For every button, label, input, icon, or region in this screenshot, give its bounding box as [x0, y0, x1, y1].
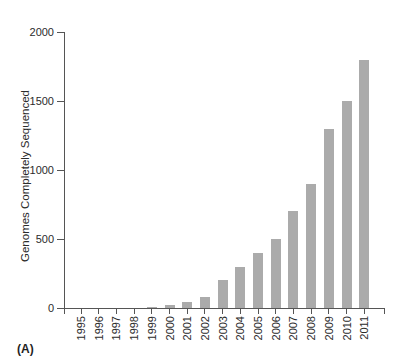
x-tick — [311, 308, 312, 314]
x-tick — [204, 308, 205, 314]
y-tick — [57, 308, 64, 309]
x-tick-label: 1997 — [110, 316, 122, 340]
bar — [200, 297, 210, 308]
x-tick — [151, 308, 152, 314]
x-tick — [328, 308, 329, 314]
x-tick-label: 2001 — [181, 316, 193, 340]
bar — [342, 101, 352, 308]
plot-area: 0500100015002000199519961997199819992000… — [64, 32, 384, 309]
bar — [218, 280, 228, 308]
bar — [288, 211, 298, 308]
x-tick — [81, 308, 82, 314]
bar — [324, 129, 334, 308]
bar — [306, 184, 316, 308]
x-tick-label: 2008 — [305, 316, 317, 340]
x-tick-label: 2006 — [270, 316, 282, 340]
x-tick — [258, 308, 259, 314]
x-tick — [346, 308, 347, 314]
x-tick-label: 2010 — [341, 316, 353, 340]
axis-origin-tick — [64, 308, 65, 314]
x-tick — [364, 308, 365, 314]
y-tick — [57, 32, 64, 33]
x-tick-label: 1995 — [75, 316, 87, 340]
bar — [271, 239, 281, 308]
x-tick — [134, 308, 135, 314]
genomes-bar-chart-figure: Genomes Completely Sequenced 05001000150… — [0, 0, 393, 361]
bar — [182, 302, 192, 308]
x-tick — [116, 308, 117, 314]
x-tick-label: 2007 — [287, 316, 299, 340]
x-tick-label: 2009 — [323, 316, 335, 340]
y-tick — [57, 170, 64, 171]
x-tick — [187, 308, 188, 314]
x-tick-label: 1996 — [93, 316, 105, 340]
y-tick — [57, 239, 64, 240]
bar — [253, 253, 263, 308]
x-tick — [275, 308, 276, 314]
panel-label: (A) — [17, 342, 34, 356]
x-tick — [222, 308, 223, 314]
x-tick-label: 2004 — [234, 316, 246, 340]
x-tick-label: 2011 — [358, 316, 370, 340]
x-tick — [169, 308, 170, 314]
y-tick-label: 1500 — [14, 95, 54, 108]
x-tick — [293, 308, 294, 314]
x-tick-label: 2003 — [217, 316, 229, 340]
y-tick-label: 1000 — [14, 164, 54, 177]
y-tick-label: 500 — [14, 233, 54, 246]
x-tick-label: 2005 — [252, 316, 264, 340]
y-tick-label: 0 — [14, 302, 54, 315]
x-tick-label: 2002 — [199, 316, 211, 340]
x-tick-label: 1998 — [128, 316, 140, 340]
bar — [147, 307, 157, 308]
bar — [359, 60, 369, 308]
axis-end-tick — [384, 308, 385, 314]
x-tick — [240, 308, 241, 314]
bar — [165, 305, 175, 308]
x-tick-label: 1999 — [146, 316, 158, 340]
x-tick-label: 2000 — [164, 316, 176, 340]
y-tick — [57, 101, 64, 102]
x-tick — [98, 308, 99, 314]
bar — [235, 267, 245, 308]
y-tick-label: 2000 — [14, 26, 54, 39]
